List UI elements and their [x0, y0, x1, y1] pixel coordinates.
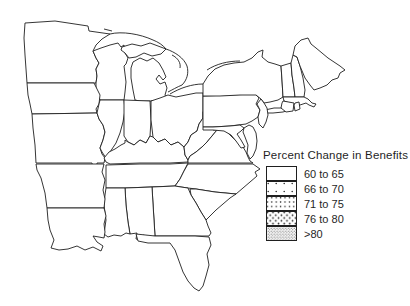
- legend-row-76-80: 76 to 80: [266, 211, 344, 226]
- state-rhode-island: [294, 102, 300, 111]
- state-missouri: [32, 113, 105, 168]
- legend-label-71-75: 71 to 75: [304, 198, 344, 210]
- state-pennsylvania: [203, 94, 260, 127]
- lake-huron-shore: [166, 49, 188, 92]
- legend-label-76-80: 76 to 80: [304, 213, 344, 225]
- state-michigan-upper: [121, 43, 166, 58]
- legend-row-gt-80: >80: [266, 226, 344, 241]
- state-indiana: [124, 100, 151, 145]
- legend-label-gt-80: >80: [304, 228, 323, 240]
- georgian-bay-shore: [172, 55, 180, 68]
- state-new-jersey: [257, 99, 268, 128]
- legend-row-71-75: 71 to 75: [266, 196, 344, 211]
- isle-royale: [104, 29, 112, 31]
- legend-label-66-70: 66 to 70: [304, 183, 344, 195]
- state-new-york: [203, 50, 283, 103]
- state-arkansas: [36, 164, 105, 208]
- legend-swatch-66-70: [267, 182, 297, 196]
- legend-row-66-70: 66 to 70: [266, 181, 344, 196]
- legend-swatch-76-80: [267, 212, 297, 226]
- lake-erie-north-shore: [170, 84, 203, 94]
- legend-swatch-gt-80: [267, 227, 297, 241]
- legend-label-60-65: 60 to 65: [304, 168, 344, 180]
- legend-title: Percent Change in Benefits: [263, 149, 408, 161]
- benefits-change-map-figure: Percent Change in Benefits 60 to 65 66 t…: [0, 0, 410, 306]
- legend: 60 to 65 66 to 70 71 to 75 76 to 80 >80: [266, 166, 344, 241]
- state-michigan-lower: [131, 58, 167, 101]
- state-iowa: [27, 83, 100, 114]
- state-florida: [136, 234, 211, 291]
- legend-swatch-71-75: [267, 197, 297, 211]
- legend-row-60-65: 60 to 65: [266, 166, 344, 181]
- state-louisiana: [47, 208, 106, 251]
- legend-swatch-60-65: [267, 167, 297, 181]
